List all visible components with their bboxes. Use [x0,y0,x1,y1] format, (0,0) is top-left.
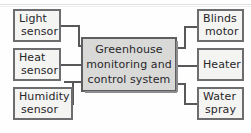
block-heat-sensor-line1: Heat [19,51,46,64]
wire-blinds-motor-vertical [184,26,186,48]
wire-water-spray-vertical [184,83,186,105]
block-heater[interactable]: Heater [197,48,244,81]
diagram-canvas: Light sensor Heat sensor Humidity sensor… [0,0,251,133]
page-rule-top-secondary [0,6,251,7]
block-humidity-sensor-line1: Humidity [19,90,70,103]
block-humidity-sensor[interactable]: Humidity sensor [13,87,73,120]
wire-heater-horizontal [176,65,198,67]
controller-line3: control system [88,72,171,87]
block-light-sensor-line1: Light [19,12,47,25]
controller-line2: monitoring and [86,57,172,72]
wire-water-spray-horizontal [184,103,198,105]
block-light-sensor[interactable]: Light sensor [13,9,61,42]
controller-line1: Greenhouse [95,42,162,57]
block-water-spray-line2: spray [203,103,236,116]
wire-blinds-motor-horizontal [184,26,198,28]
block-heat-sensor[interactable]: Heat sensor [13,48,61,81]
block-light-sensor-line2: sensor [19,25,58,38]
block-blinds-motor-line1: Blinds [203,12,237,25]
block-water-spray-line1: Water [203,90,236,103]
block-blinds-motor-line2: motor [203,25,239,38]
block-water-spray[interactable]: Water spray [197,87,244,120]
wire-light-sensor-horizontal [60,25,80,27]
block-blinds-motor[interactable]: Blinds motor [197,9,244,42]
block-heat-sensor-line2: sensor [19,64,58,77]
block-heater-line1: Heater [203,58,241,71]
block-greenhouse-controller[interactable]: Greenhouse monitoring and control system [81,37,177,92]
page-rule-top [0,4,251,5]
wire-light-sensor-vertical [78,25,80,47]
block-humidity-sensor-line2: sensor [19,103,58,116]
